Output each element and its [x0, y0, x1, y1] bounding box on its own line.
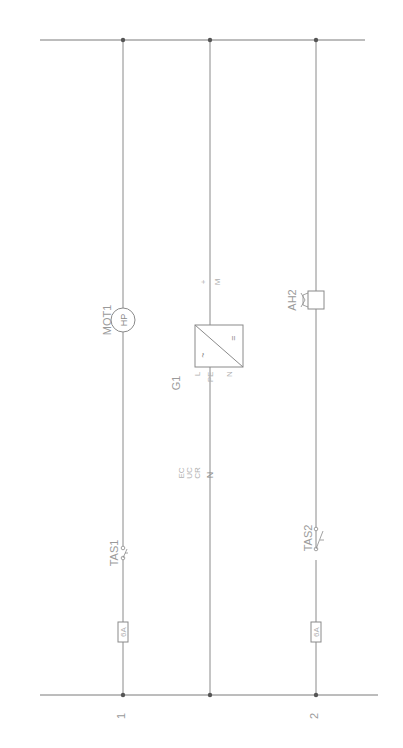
fuse-symbol[interactable]: 6A	[118, 622, 128, 642]
switch-label: TAS2	[302, 525, 314, 552]
pin-label: L	[193, 371, 202, 376]
branch-number: 2	[308, 713, 320, 719]
junction-dot	[208, 38, 212, 42]
pin-label: PE	[206, 372, 215, 383]
pin-label: N	[225, 371, 234, 377]
junction-dot	[121, 693, 125, 697]
power-supply-label: G1	[170, 376, 182, 391]
switch-symbol[interactable]	[121, 546, 128, 560]
motor-symbol[interactable]: HP	[111, 308, 135, 332]
dc-symbol: =	[228, 335, 238, 340]
horn-symbol[interactable]	[301, 291, 324, 309]
junction-dot	[314, 693, 318, 697]
branch-1: HP MOT1 TAS1 6A 1	[101, 38, 135, 719]
branch-number: 1	[115, 713, 127, 719]
terminal-pin-label: N	[205, 472, 215, 479]
power-supply-symbol[interactable]: = ~	[195, 325, 243, 367]
fuse-rating: 6A	[312, 626, 321, 636]
horn-label: AH2	[286, 289, 298, 310]
ac-symbol: ~	[198, 352, 208, 357]
pin-label: +	[199, 279, 208, 284]
schematic-canvas: HP MOT1 TAS1 6A 1 + M = ~	[0, 0, 403, 748]
junction-dot	[121, 38, 125, 42]
branch-mid: + M = ~ L PE N G1 EC UC CR N	[170, 38, 243, 697]
motor-label: MOT1	[101, 305, 113, 336]
junction-dot	[314, 38, 318, 42]
fuse-rating: 6A	[119, 626, 128, 636]
motor-symbol-text: HP	[119, 314, 129, 327]
branch-2: AH2 TAS2 6A 2	[286, 38, 324, 719]
switch-label: TAS1	[108, 540, 120, 567]
junction-dot	[208, 693, 212, 697]
fuse-symbol[interactable]: 6A	[311, 622, 321, 642]
terminal-label: CR	[193, 467, 202, 479]
pin-label: M	[213, 278, 222, 285]
